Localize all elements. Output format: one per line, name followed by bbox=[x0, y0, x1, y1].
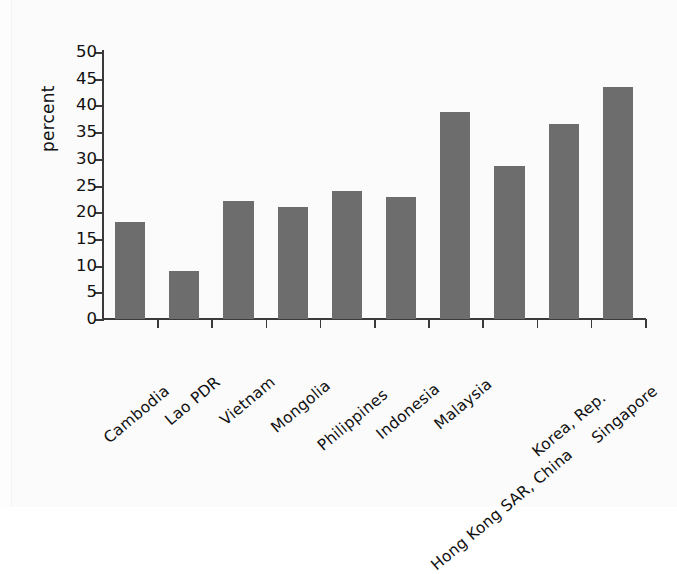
x-tick-mark bbox=[591, 319, 593, 328]
x-tick-mark bbox=[645, 319, 647, 328]
y-tick-label: 40 bbox=[76, 97, 97, 114]
x-tick-mark bbox=[157, 319, 159, 328]
bar bbox=[169, 271, 199, 319]
y-tick-label: 20 bbox=[76, 204, 97, 221]
x-tick-mark bbox=[482, 319, 484, 328]
bar bbox=[386, 197, 416, 319]
bar bbox=[440, 112, 470, 319]
y-tick-label: 50 bbox=[76, 44, 97, 61]
bar bbox=[494, 166, 524, 319]
x-tick-mark bbox=[428, 319, 430, 328]
bar bbox=[332, 191, 362, 319]
x-tick-mark bbox=[266, 319, 268, 328]
x-axis-label-text: Philippines bbox=[315, 387, 391, 454]
x-axis-label-text: Malaysia bbox=[432, 377, 495, 433]
y-tick-label: 30 bbox=[76, 151, 97, 168]
x-axis-label: Hong Kong SAR, China bbox=[428, 447, 575, 574]
y-tick-label: 10 bbox=[76, 257, 97, 274]
x-tick-mark bbox=[537, 319, 539, 328]
plot-area: 50454035302520151050 bbox=[103, 52, 645, 319]
x-axis-label-text: Hong Kong SAR, China bbox=[428, 447, 575, 574]
y-tick-label: 15 bbox=[76, 231, 97, 248]
x-axis-label: Philippines bbox=[315, 387, 391, 454]
x-axis-label: Lao PDR bbox=[163, 374, 224, 428]
x-tick-mark bbox=[320, 319, 322, 328]
bar bbox=[223, 201, 253, 319]
bar bbox=[115, 222, 145, 319]
y-tick-label: 0 bbox=[87, 311, 98, 328]
bar bbox=[603, 87, 633, 319]
y-tick-label: 45 bbox=[76, 70, 97, 87]
y-tick-label: 35 bbox=[76, 124, 97, 141]
bar bbox=[278, 207, 308, 319]
x-tick-mark bbox=[374, 319, 376, 328]
bar bbox=[549, 124, 579, 319]
y-tick-label: 5 bbox=[87, 284, 98, 301]
x-axis-label-text: Lao PDR bbox=[163, 374, 224, 428]
x-tick-mark bbox=[211, 319, 213, 328]
x-axis-label: Malaysia bbox=[432, 377, 495, 433]
y-axis-title: percent bbox=[38, 85, 58, 152]
y-tick-label: 25 bbox=[76, 177, 97, 194]
